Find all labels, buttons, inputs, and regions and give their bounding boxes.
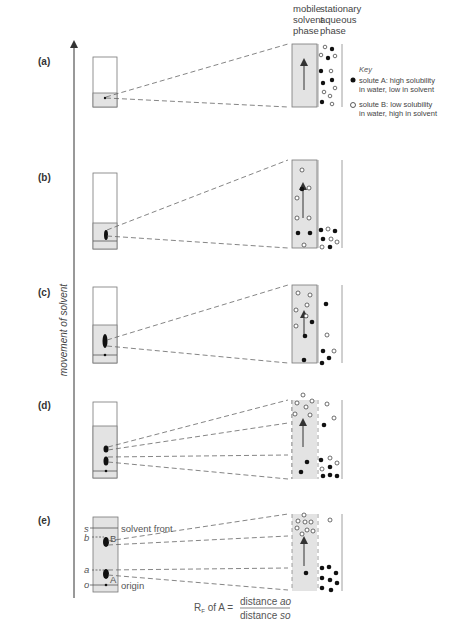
svg-text:distance so: distance so — [240, 610, 291, 621]
solute-a-icon — [351, 78, 356, 83]
panel-label-a: (a) — [38, 56, 50, 67]
svg-text:in water, low in solvent: in water, low in solvent — [359, 85, 435, 94]
mobile-phase-column — [292, 160, 317, 248]
panel-c — [93, 285, 342, 365]
spot-b — [103, 537, 109, 547]
panel-b — [93, 160, 342, 249]
solute-b-icon — [351, 103, 356, 108]
svg-text:Key: Key — [359, 65, 373, 74]
svg-text:solvent: solvent — [293, 14, 323, 25]
panel-label-d: (d) — [38, 400, 51, 411]
svg-text:RF of A =: RF of A = — [194, 602, 233, 614]
stationary-phase-solutes — [320, 302, 336, 366]
stationary-phase-solutes — [319, 227, 339, 249]
svg-text:solute B: low solubility: solute B: low solubility — [359, 100, 433, 109]
svg-text:stationary: stationary — [320, 3, 361, 14]
svg-text:a: a — [84, 564, 89, 575]
svg-text:aqueous: aqueous — [320, 14, 357, 25]
spot-a — [103, 569, 109, 579]
solvent-movement-axis: movement of solvent — [58, 44, 74, 598]
stationary-phase-solutes — [319, 45, 337, 106]
key-legend: Key solute A: high solubility in water, … — [351, 65, 438, 118]
svg-text:phase: phase — [320, 25, 346, 36]
solvent-region — [93, 93, 117, 107]
stationary-phase-solutes — [320, 518, 340, 592]
svg-text:movement of solvent: movement of solvent — [58, 283, 69, 376]
panel-label-b: (b) — [38, 172, 51, 183]
chromatography-diagram: mobile solvent phase stationary aqueous … — [0, 0, 467, 637]
panel-d — [93, 393, 342, 479]
svg-text:distance ao: distance ao — [240, 596, 292, 607]
svg-text:mobile: mobile — [293, 3, 321, 14]
panel-e: s b a o B A solvent front origin — [84, 513, 342, 592]
svg-text:origin: origin — [121, 580, 144, 591]
svg-text:b: b — [84, 532, 89, 543]
rf-formula: RF of A = distance ao distance so — [194, 596, 292, 621]
panel-label-c: (c) — [38, 287, 50, 298]
mobile-phase-header: mobile solvent phase — [293, 3, 323, 36]
stationary-phase-header: stationary aqueous phase — [320, 3, 361, 36]
svg-text:phase: phase — [293, 25, 319, 36]
svg-text:solute A: high solubility: solute A: high solubility — [359, 76, 435, 85]
panel-a — [93, 44, 342, 107]
svg-text:o: o — [84, 579, 89, 590]
stationary-phase-solutes — [319, 402, 340, 478]
svg-text:B: B — [110, 533, 116, 544]
svg-text:in water, high in solvent: in water, high in solvent — [359, 109, 438, 118]
panel-label-e: (e) — [38, 515, 50, 526]
